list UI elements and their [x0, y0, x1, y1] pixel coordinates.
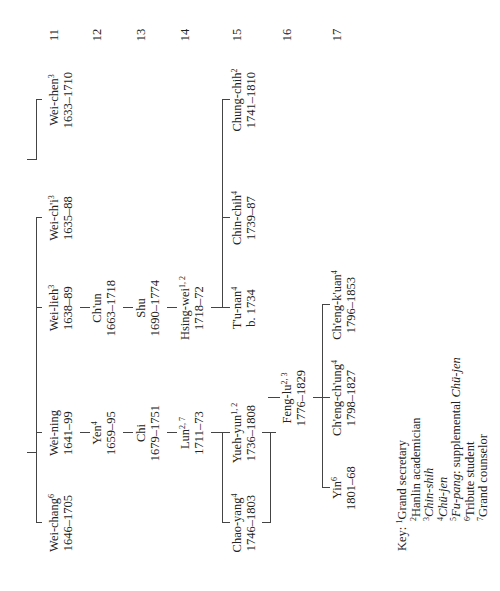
tick-wei-chang — [36, 522, 42, 523]
person-wei-ning: Wei-ning 1641–99 — [47, 410, 75, 456]
tick-yin — [322, 487, 330, 488]
tick-chao-yang — [222, 522, 230, 523]
person-lun: Lun2, 7 1711–73 — [178, 411, 206, 454]
generation-label-11: 11 — [47, 29, 62, 41]
gen11-sibling-line — [36, 218, 37, 523]
key-item-4: Chü-jen — [436, 477, 450, 517]
tick-cheng-chung — [322, 397, 330, 398]
generation-label-15: 15 — [230, 29, 245, 42]
line-yueh-yun-down — [262, 432, 272, 433]
tick-chung-chih — [222, 99, 230, 100]
person-tu-nan: T'u-nan4 b. 1734 — [230, 287, 258, 329]
tick-chin-chih — [222, 217, 230, 218]
generation-label-17: 17 — [330, 29, 345, 42]
tick-wei-ning — [36, 432, 42, 433]
line-wei-ning-yen — [80, 432, 90, 433]
chao-yang-stub — [262, 522, 270, 523]
hsing-wei-children-line — [222, 100, 223, 308]
person-chi: Chi 1679–1751 — [134, 405, 162, 461]
person-chun: Ch'un 1663–1718 — [90, 280, 118, 336]
tick-yueh-yun — [222, 432, 230, 433]
line-chun-shu — [123, 307, 133, 308]
line-wei-lieh-chun — [80, 307, 90, 308]
key-item-3: Chin-shih — [422, 468, 436, 517]
generation-label-13: 13 — [134, 29, 149, 42]
wei-chen-stub — [27, 159, 36, 160]
generation-label-12: 12 — [90, 29, 105, 42]
chao-yang-bottom-line — [270, 433, 271, 523]
person-feng-lu: Feng-lu2, 3 1776–1829 — [280, 370, 308, 426]
legend-key: Key: 1Grand secretary 2Hanlin academicia… — [396, 357, 491, 551]
person-cheng-chung: Ch'eng-ch'ung4 1798–1827 — [330, 360, 358, 436]
tick-wei-lieh — [36, 307, 42, 308]
key-item-1: Grand secretary — [395, 440, 409, 519]
key-item-5-term: Fu-pang — [449, 474, 463, 517]
tick-wei-chen — [36, 99, 42, 100]
key-item-7: Grand counselor — [476, 434, 490, 517]
person-wei-chi: Wei-ch'i3 1635–88 — [47, 195, 75, 241]
key-item-5: : supplemental — [449, 398, 463, 474]
generation-label-16: 16 — [280, 29, 295, 42]
wei-chen-line — [36, 100, 37, 160]
key-item-6: Tribute student — [463, 441, 477, 517]
line-shu-hsing-wei — [167, 307, 177, 308]
person-wei-chang: Wei-chang6 1646–1705 — [47, 494, 75, 552]
person-wei-lieh: Wei-lieh3 1638–89 — [47, 285, 75, 332]
tick-wei-chi — [36, 217, 42, 218]
person-yen: Yen4 1659–95 — [90, 411, 118, 455]
person-cheng-kuan: Ch'eng-k'uan4 1796–1853 — [330, 270, 358, 340]
line-yen-chi — [123, 432, 133, 433]
person-yueh-yun: Yueh-yun1, 2 1736–1808 — [230, 403, 258, 464]
key-item-2: Hanlin academician — [409, 417, 423, 517]
person-shu: Shu 1690–1774 — [134, 280, 162, 336]
feng-lu-stub — [268, 397, 280, 398]
line-chi-lun — [167, 432, 177, 433]
generation-label-14: 14 — [178, 29, 193, 42]
person-yin: Yin6 1801–68 — [330, 466, 358, 510]
tick-tu-nan — [222, 307, 230, 308]
person-chin-chih: Chin-chih4 1739–87 — [230, 191, 258, 245]
lun-children-line — [222, 433, 223, 523]
genealogy-chart: 11 12 13 14 15 16 17 Wei-chen3 1633–1710… — [0, 0, 500, 591]
key-label: Key: — [395, 527, 409, 551]
parent-stub — [27, 452, 36, 453]
feng-lu-corner — [268, 397, 269, 398]
tick-cheng-kuan — [322, 304, 330, 305]
key-item-5-term2: Chü-jen — [449, 357, 463, 397]
person-chung-chih: Chung-chih2 1741–1810 — [230, 68, 258, 131]
person-chao-yang: Chao-yang4 1746–1803 — [230, 494, 258, 553]
person-hsing-wei: Hsing-wei1, 2 1718–72 — [178, 276, 206, 340]
person-wei-chen: Wei-chen3 1633–1710 — [47, 72, 75, 128]
